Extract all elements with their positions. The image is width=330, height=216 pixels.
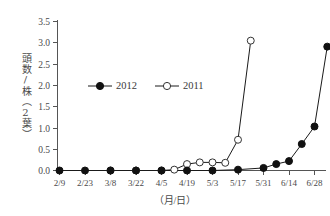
line-chart: 0.0 0.5 1.0 1.5 2.0 2.5 3.0 3.5 2/9 2 bbox=[0, 0, 330, 216]
data-point-2011-5-24 bbox=[247, 37, 254, 44]
x-tick-label-7: 5/17 bbox=[230, 178, 247, 188]
chart-legend: 2012 2011 bbox=[88, 80, 204, 91]
legend-marker-2012-icon bbox=[96, 82, 103, 89]
y-axis-ticks bbox=[53, 21, 58, 171]
x-tick-label-10: 6/28 bbox=[306, 178, 323, 188]
x-tick-label-9: 6/14 bbox=[281, 178, 298, 188]
y-axis-tick-labels: 0.0 0.5 1.0 1.5 2.0 2.5 3.0 3.5 bbox=[38, 17, 50, 177]
y-tick-label-0: 0.0 bbox=[38, 166, 50, 176]
data-point-2012-5-17 bbox=[235, 166, 242, 173]
x-axis-tick-labels: 2/9 2/23 3/8 3/22 4/5 4/19 5/3 5/17 5/31… bbox=[54, 178, 323, 188]
data-point-2012-6-21 bbox=[298, 141, 305, 148]
series-2011-markers bbox=[107, 37, 254, 174]
y-tick-label-4: 2.0 bbox=[38, 81, 50, 91]
x-tick-label-4: 4/5 bbox=[156, 178, 168, 188]
legend-label-2011: 2011 bbox=[183, 80, 204, 91]
y-tick-label-5: 2.5 bbox=[38, 60, 50, 70]
x-axis-caption: （月/日） bbox=[154, 195, 197, 206]
data-point-2012-4-19 bbox=[184, 167, 191, 174]
series-2012-line bbox=[60, 47, 328, 171]
series-path-2011 bbox=[111, 41, 251, 171]
chart-page: 0.0 0.5 1.0 1.5 2.0 2.5 3.0 3.5 2/9 2 bbox=[0, 0, 330, 216]
data-point-2012-6-14 bbox=[286, 158, 293, 165]
series-2011-line bbox=[111, 41, 251, 171]
data-point-2012-3-8 bbox=[107, 167, 114, 174]
data-point-2012-2-9 bbox=[56, 167, 63, 174]
series-2012-markers bbox=[56, 43, 330, 174]
data-point-2011-5-10 bbox=[222, 159, 229, 166]
x-tick-label-1: 2/23 bbox=[77, 178, 94, 188]
y-tick-label-6: 3.0 bbox=[38, 38, 50, 48]
series-path-2012 bbox=[60, 47, 328, 171]
data-point-2012-6-7 bbox=[273, 161, 280, 168]
y-tick-label-1: 0.5 bbox=[38, 145, 50, 155]
x-tick-label-3: 3/22 bbox=[128, 178, 144, 188]
data-point-2012-5-3 bbox=[209, 167, 216, 174]
data-point-2012-3-22 bbox=[133, 167, 140, 174]
x-tick-label-8: 5/31 bbox=[255, 178, 271, 188]
data-point-2012-7-5 bbox=[324, 43, 330, 50]
data-point-2011-4-26 bbox=[196, 159, 203, 166]
y-tick-label-3: 1.5 bbox=[38, 102, 50, 112]
y-tick-label-2: 1.0 bbox=[38, 124, 50, 134]
data-point-2011-5-17 bbox=[235, 136, 242, 143]
data-point-2012-4-5 bbox=[158, 167, 165, 174]
data-point-2011-5-3 bbox=[209, 159, 216, 166]
x-tick-label-6: 5/3 bbox=[207, 178, 219, 188]
data-point-2012-2-23 bbox=[82, 167, 89, 174]
data-point-2011-4-12 bbox=[171, 166, 178, 173]
data-point-2012-5-31 bbox=[260, 164, 267, 171]
x-tick-label-2: 3/8 bbox=[105, 178, 117, 188]
legend-marker-2011-icon bbox=[163, 82, 170, 89]
legend-label-2012: 2012 bbox=[116, 80, 137, 91]
x-tick-label-5: 4/19 bbox=[179, 178, 196, 188]
data-point-2012-6-28 bbox=[311, 123, 318, 130]
x-tick-label-0: 2/9 bbox=[54, 178, 66, 188]
y-tick-label-7: 3.5 bbox=[38, 17, 50, 27]
